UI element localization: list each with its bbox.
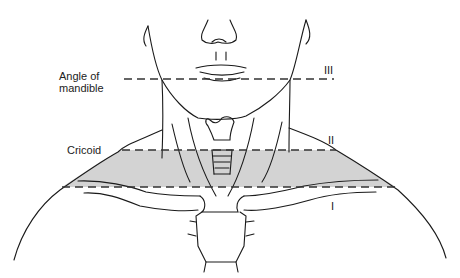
zone-label-iii: III — [324, 64, 333, 76]
label-angle-line2: mandible — [59, 82, 104, 94]
zone-label-i: I — [331, 200, 334, 212]
anatomy-drawing — [0, 0, 460, 278]
label-cricoid: Cricoid — [67, 144, 101, 156]
label-angle-of-mandible: Angle of mandible — [59, 70, 104, 94]
zone-label-ii: II — [328, 134, 334, 146]
neck-zones-diagram: Angle of mandible Cricoid III II I — [0, 0, 460, 278]
label-angle-line1: Angle of — [59, 70, 104, 82]
